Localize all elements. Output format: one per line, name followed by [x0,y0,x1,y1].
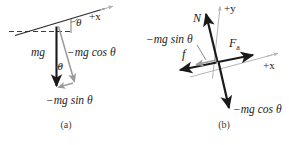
vector-f-label: f [182,47,187,61]
vector-Fa-label: Fa [228,36,240,52]
axis-plus-x-label-a: +x [89,10,101,22]
axis-plus-y-label: +y [224,2,236,14]
vector-mg-sin-theta-label: −mg sin θ [46,94,93,107]
axis-plus-x-label-b: +x [263,59,275,71]
angle-theta-inner-label: θ [58,60,64,72]
vector-mg-label: mg [31,46,45,59]
vector-mg-cos-theta-label: −mg cos θ [67,46,116,59]
axis-plus-x-arrow-b [266,53,278,56]
vector-mg-cos-theta-b [219,62,230,108]
vector-Fa [218,55,253,62]
axis-plus-x-arrow-a [100,6,113,10]
panel-b: +y +x N −mg cos θ Fa f −mg sin θ (b) [146,2,282,131]
vector-N-label: N [192,11,202,25]
panel-a-caption: (a) [60,119,71,131]
panel-a: +x θ mg −mg cos θ −mg sin θ θ (a) [9,6,116,131]
panel-b-caption: (b) [218,119,230,131]
axis-plus-y-arrow [219,7,220,15]
angle-theta-top-label: θ [76,16,82,28]
vector-mg-cos-theta-b-label: −mg cos θ [233,103,282,116]
leader-line-mg-sin-theta [197,45,206,60]
vector-mg-sin-theta [58,83,73,87]
vector-mg-sin-theta-b-label: −mg sin θ [146,33,193,46]
vector-N [206,14,218,62]
figure-canvas: +x θ mg −mg cos θ −mg sin θ θ (a) [0,0,289,145]
physics-figure: +x θ mg −mg cos θ −mg sin θ θ (a) [0,0,289,145]
